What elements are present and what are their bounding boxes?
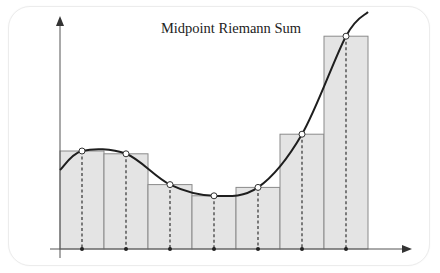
midpoint-marker: [211, 193, 217, 199]
chart-title: Midpoint Riemann Sum: [161, 20, 302, 36]
midpoint-marker: [167, 182, 173, 188]
rectangle-3: [148, 185, 192, 249]
midpoint-tick: [80, 247, 84, 251]
rectangle-2: [104, 154, 148, 249]
midpoint-marker: [255, 184, 261, 190]
midpoint-tick: [344, 247, 348, 251]
riemann-sum-plot: Midpoint Riemann Sum: [0, 0, 440, 273]
rectangles: [60, 36, 368, 249]
midpoint-tick: [256, 247, 260, 251]
midpoint-marker: [79, 148, 85, 154]
midpoint-marker: [343, 33, 349, 39]
y-axis-arrow-icon: [56, 16, 64, 26]
midpoint-tick: [300, 247, 304, 251]
midpoint-tick: [168, 247, 172, 251]
midpoint-tick: [212, 247, 216, 251]
midpoint-marker: [123, 151, 129, 157]
midpoint-marker: [299, 131, 305, 137]
midpoint-tick: [124, 247, 128, 251]
x-axis-arrow-icon: [402, 245, 412, 253]
